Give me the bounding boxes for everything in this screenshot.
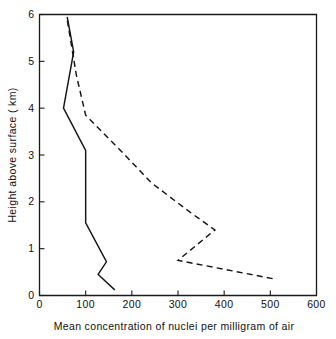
data-series-group [64, 17, 273, 290]
x-tick-label: 400 [215, 298, 234, 310]
y-tick-label: 5 [28, 55, 34, 67]
x-axis-ticks: 0100200300400500600 [36, 291, 325, 310]
x-axis-label: Mean concentration of nuclei per milligr… [54, 320, 295, 332]
x-tick-label: 500 [261, 298, 280, 310]
series-solid-profile [64, 17, 115, 290]
y-tick-label: 4 [28, 102, 34, 114]
x-tick-label: 300 [169, 298, 188, 310]
x-tick-label: 0 [36, 298, 42, 310]
chart-canvas: 0100200300400500600 0123456 Mean concent… [0, 0, 336, 339]
x-tick-label: 200 [122, 298, 141, 310]
y-tick-label: 3 [28, 149, 34, 161]
series-dashed-profile [67, 17, 273, 279]
chart-figure: 0100200300400500600 0123456 Mean concent… [0, 0, 336, 339]
x-tick-label: 600 [307, 298, 326, 310]
y-tick-label: 6 [28, 8, 34, 20]
y-tick-label: 2 [28, 195, 34, 207]
y-tick-label: 0 [28, 289, 34, 301]
x-tick-label: 100 [76, 298, 95, 310]
plot-frame [40, 15, 317, 296]
y-tick-label: 1 [28, 242, 34, 254]
axis-box [40, 15, 317, 296]
y-axis-ticks: 0123456 [28, 8, 44, 301]
y-axis-label: Height above surface ( km) [6, 87, 18, 222]
